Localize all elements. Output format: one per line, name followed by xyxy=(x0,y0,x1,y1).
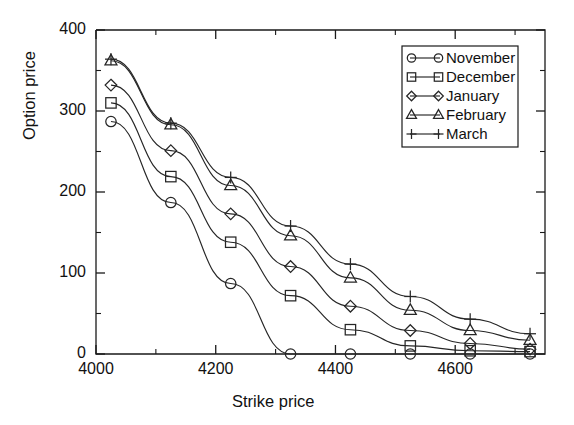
legend-label: March xyxy=(446,125,488,142)
legend-label: December xyxy=(446,68,515,85)
x-axis-title: Strike price xyxy=(232,392,315,411)
y-tick-label: 200 xyxy=(0,182,86,200)
x-tick-label: 4000 xyxy=(56,360,136,378)
x-tick-label: 4600 xyxy=(415,360,495,378)
series-november xyxy=(106,116,535,359)
x-tick-label: 4200 xyxy=(176,360,256,378)
legend-label: February xyxy=(446,106,506,123)
option-price-chart: Option price Strike price 01002003004004… xyxy=(0,0,574,425)
y-tick-label: 300 xyxy=(0,101,86,119)
x-tick-label: 4400 xyxy=(295,360,375,378)
legend-label: November xyxy=(446,49,515,66)
legend-label: January xyxy=(446,87,499,104)
y-tick-label: 100 xyxy=(0,263,86,281)
y-axis-title: Option price xyxy=(20,51,39,140)
y-tick-label: 400 xyxy=(0,20,86,38)
